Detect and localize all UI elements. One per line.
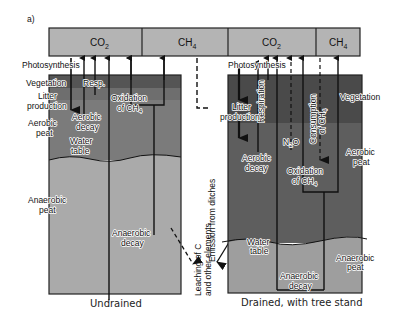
undrained-photosynthesis-label: Photosynthesis [22, 60, 80, 70]
undrained-anaerobic-peat-label-2: peat [39, 205, 56, 215]
aerobic-decay-label-1: Aerobic [72, 112, 102, 122]
drained-aerobic-decay-label-1: Aerobic [242, 153, 272, 163]
aerobic-peat-label-1: Aerobic [28, 118, 58, 128]
drained-anaerobic-peat-label-2: peat [347, 262, 364, 272]
peatland-carbon-diagram: a) CO2 CH4 CO2 CH4 Photosynthesis Vegeta… [0, 0, 400, 326]
drained-litter-label-1: Litter [232, 102, 251, 112]
drained-litter-label-2: production [220, 112, 260, 122]
drained-vegetation-label: Vegetation [340, 92, 380, 102]
leaching-label-2: and other elements [203, 223, 213, 296]
aerobic-peat-label-2: peat [36, 128, 53, 138]
undrained-litter-label-1: Litter [38, 91, 57, 101]
drained-aerobic-decay-label-2: decay [245, 163, 268, 173]
drained-water-table-label-2: table [250, 246, 269, 256]
undrained-oxidation-label-1: Oxidation [111, 93, 147, 103]
leaching-label-1: Leaching of C [193, 244, 203, 296]
panel-label: a) [27, 14, 35, 24]
drained-anaerobic-decay-label-1: Anaerobic [280, 271, 319, 281]
resp-label: Resp. [83, 78, 105, 88]
drained-aerobic-peat-label-1: Aerobic [346, 147, 376, 157]
drained-caption: Drained, with tree stand [241, 297, 363, 308]
undrained-water-table-label-1: Water [70, 136, 93, 146]
drained-oxidation-label-1: Oxidation [287, 166, 323, 176]
undrained-caption: Undrained [90, 298, 142, 309]
undrained-anaerobic-decay-label-2: decay [121, 238, 144, 248]
drained-peatland: Photosynthesis Respiration Vegetation Li… [220, 58, 380, 308]
undrained-peatland: Photosynthesis Vegetation Resp. Litter p… [22, 58, 181, 309]
aerobic-decay-label-2: decay [76, 122, 99, 132]
undrained-anaerobic-decay-label-1: Anaerobic [112, 228, 151, 238]
gas-flux-bar: CO2 CH4 CO2 CH4 [49, 28, 360, 56]
ditch-emission-arrow [197, 58, 209, 108]
undrained-litter-label-2: production [27, 101, 67, 111]
undrained-anaerobic-peat-label-1: Anaerobic [28, 195, 67, 205]
drained-aerobic-peat-label-2: peat [353, 157, 370, 167]
drained-photosynthesis-label: Photosynthesis [228, 60, 286, 70]
undrained-water-table-label-2: table [71, 146, 90, 156]
drained-anaerobic-decay-label-2: decay [289, 281, 312, 291]
undrained-vegetation-label: Vegetation [26, 78, 66, 88]
